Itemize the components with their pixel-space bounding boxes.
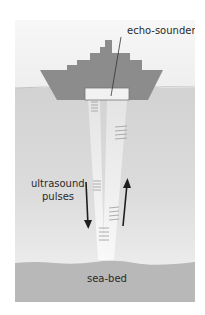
pulses-label: pulses	[42, 191, 74, 203]
diagram-artwork	[15, 20, 195, 302]
echo-sounding-diagram: echo-sounder ultrasound pulses sea-bed	[15, 20, 195, 302]
echo-sounder-box	[85, 88, 129, 100]
sea-bed-label: sea-bed	[87, 273, 127, 285]
echo-sounder-label: echo-sounder	[127, 25, 195, 37]
ultrasound-label: ultrasound	[31, 178, 85, 190]
